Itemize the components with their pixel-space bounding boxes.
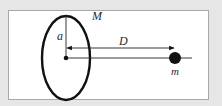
point-mass <box>169 52 181 64</box>
ring-point-mass-diagram <box>0 0 222 106</box>
radius-label: a <box>57 30 63 42</box>
ring-mass-label: M <box>92 10 102 22</box>
distance-label: D <box>119 35 128 47</box>
point-mass-label: m <box>171 66 179 77</box>
center-point <box>64 56 69 61</box>
